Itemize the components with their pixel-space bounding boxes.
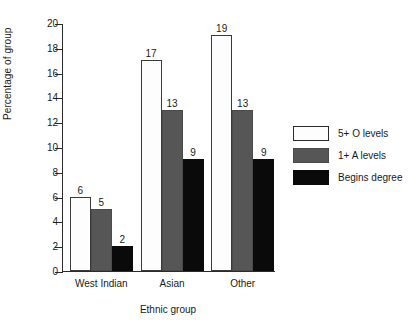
y-tick-label: 18 — [47, 42, 58, 55]
swatch-gray-icon — [293, 148, 329, 163]
x-axis-line — [62, 271, 275, 272]
bar: 13 — [232, 110, 253, 271]
bar: 5 — [91, 209, 112, 271]
plot-area: 02468101214161820 6521713919139 — [62, 24, 274, 272]
legend-item: Begins degree — [293, 166, 403, 188]
bar: 19 — [211, 35, 232, 271]
y-tick-label: 14 — [47, 91, 58, 104]
y-tick-label: 6 — [52, 191, 58, 204]
x-category-label: Asian — [159, 278, 184, 289]
legend-item: 1+ A levels — [293, 144, 403, 166]
chart-legend: 5+ O levels1+ A levelsBegins degree — [293, 122, 403, 188]
bar-value-label: 9 — [261, 147, 267, 158]
bar: 9 — [253, 159, 274, 271]
legend-label: Begins degree — [338, 172, 403, 183]
y-tick-label: 12 — [47, 116, 58, 129]
y-tick-label: 4 — [52, 215, 58, 228]
x-category-label: West Indian — [75, 278, 128, 289]
bar: 6 — [70, 197, 91, 271]
legend-label: 1+ A levels — [338, 150, 386, 161]
y-tick-label: 16 — [47, 67, 58, 80]
y-tick-label: 20 — [47, 17, 58, 30]
y-tick-label: 8 — [52, 166, 58, 179]
bar-value-label: 9 — [190, 147, 196, 158]
x-axis-title: Ethnic group — [140, 304, 196, 315]
bar: 2 — [112, 246, 133, 271]
x-category-label: Other — [230, 278, 255, 289]
swatch-black-icon — [293, 170, 329, 185]
bar-value-label: 19 — [216, 23, 227, 34]
y-tick-label: 0 — [52, 265, 58, 278]
y-tick-label: 2 — [52, 240, 58, 253]
legend-item: 5+ O levels — [293, 122, 403, 144]
y-tick-label: 10 — [47, 141, 58, 154]
bar-value-label: 17 — [145, 48, 156, 59]
bar-value-label: 6 — [78, 185, 84, 196]
bar-value-label: 5 — [99, 197, 105, 208]
bar: 13 — [162, 110, 183, 271]
bar: 9 — [183, 159, 204, 271]
bar: 17 — [141, 60, 162, 271]
bar-series-container: 6521713919139 — [63, 24, 274, 271]
bar-value-label: 2 — [120, 234, 126, 245]
swatch-white-icon — [293, 126, 329, 141]
y-axis-title: Percentage of group — [2, 0, 13, 120]
legend-label: 5+ O levels — [338, 128, 388, 139]
bar-value-label: 13 — [166, 98, 177, 109]
bar-chart: Percentage of group 02468101214161820 65… — [0, 0, 415, 333]
bar-value-label: 13 — [237, 98, 248, 109]
